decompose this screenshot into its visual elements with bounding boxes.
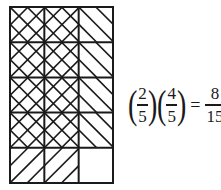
fraction-result: 8 15 [205,85,221,124]
numerator: 4 [166,85,177,104]
hatch-line-back [165,7,200,42]
hatch-line-back [79,7,114,42]
grid-cell-fwd [0,148,165,183]
grid-cell-cross [0,42,165,77]
numerator: 2 [137,85,148,104]
open-paren: ( [128,85,137,125]
hatch-line-forward [130,42,165,77]
hatch-line-forward [0,148,28,183]
grid-cell-cross [0,7,165,42]
grid-cell-fwd [0,148,131,183]
hatch-line-forward [130,148,165,183]
hatch-line-back [113,7,148,42]
fraction-factor-2: 4 5 [166,85,177,124]
close-paren: ) [148,85,157,125]
close-paren: ) [177,85,186,125]
grid-cell-cross [0,77,131,112]
hatch-line-forward [44,148,79,183]
hatch-line-back [130,42,165,77]
hatch-line-back [79,113,114,148]
denominator: 5 [137,106,148,125]
hatch-line-forward [130,7,165,42]
denominator: 5 [166,106,177,125]
denominator: 15 [205,106,221,125]
equals-sign: = [190,95,200,116]
hatch-line-back [130,7,165,42]
hatch-line-back [147,42,182,77]
grid-cell-cross [0,42,131,77]
hatch-line-back [147,7,182,42]
hatch-line-forward [10,148,45,183]
hatch-line-back [113,42,148,77]
hatch-line-back [79,77,114,112]
hatch-line-forward [113,42,148,77]
grid-cell-cross [0,113,131,148]
hatch-line-forward [113,148,148,183]
fraction-equation: ( 2 5 ) ( 4 5 ) = 8 15 [128,80,221,130]
hatch-line-forward [79,148,114,183]
hatch-line-back [130,42,165,77]
grid-cell-cross [0,7,131,42]
hatch-line-forward [79,148,114,183]
hatch-line-back [113,42,148,77]
hatch-line-back [130,7,165,42]
open-paren: ( [157,85,166,125]
hatch-line-back [165,42,200,77]
fraction-factor-1: 2 5 [137,85,148,124]
numerator: 8 [210,85,221,104]
hatch-line-back [79,42,114,77]
hatch-line-back [113,7,148,42]
hatch-line-forward [113,7,148,42]
